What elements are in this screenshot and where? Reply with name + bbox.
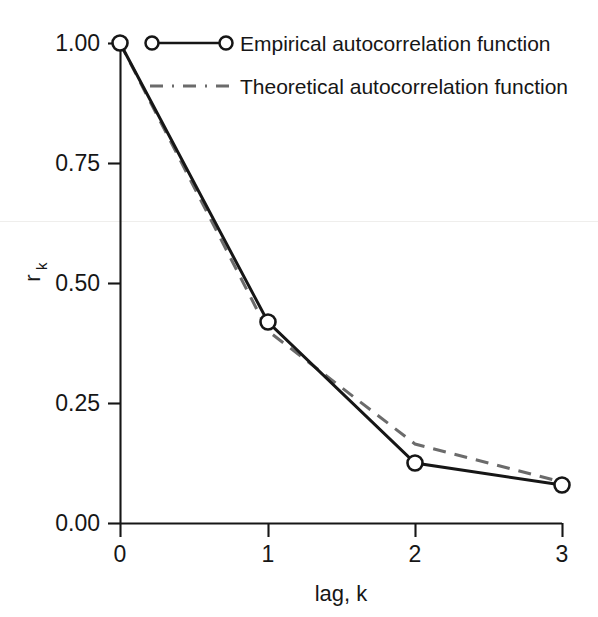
x-tick-label-0: 0 — [114, 541, 127, 567]
y-tick-label-0.75: 0.75 — [55, 150, 100, 176]
y-tick-label-0.00: 0.00 — [55, 510, 100, 536]
data-point-lag-2 — [408, 456, 423, 471]
autocorrelation-figure: r e n v c n 1.00 0.75 0.50 0.25 0.00 — [0, 0, 598, 617]
legend-marker-open-circle-left — [146, 37, 159, 50]
x-axis — [120, 523, 563, 537]
x-tick-label-1: 1 — [262, 541, 275, 567]
legend: Empirical autocorrelation function Theor… — [146, 32, 569, 98]
y-axis-title-main: r — [20, 274, 45, 281]
x-tick-label-2: 2 — [409, 541, 422, 567]
data-point-lag-1 — [261, 315, 276, 330]
data-point-lag-3 — [555, 478, 570, 493]
series-theoretical-line — [120, 43, 562, 482]
series-empirical-line — [120, 43, 562, 485]
series-empirical-markers — [113, 36, 570, 493]
chart-canvas: 1.00 0.75 0.50 0.25 0.00 0 1 2 3 r k lag… — [0, 0, 598, 617]
legend-entry-theoretical[interactable]: Theoretical autocorrelation function — [150, 75, 568, 98]
y-axis-title: r k — [20, 262, 50, 282]
x-axis-title: lag, k — [315, 581, 369, 606]
legend-label-theoretical: Theoretical autocorrelation function — [240, 75, 568, 98]
y-axis-title-sub: k — [33, 262, 50, 270]
y-tick-label-0.50: 0.50 — [55, 270, 100, 296]
y-tick-label-0.25: 0.25 — [55, 390, 100, 416]
legend-marker-open-circle-right — [220, 37, 233, 50]
x-tick-label-3: 3 — [556, 541, 569, 567]
data-point-lag-0 — [113, 36, 128, 51]
y-axis — [108, 43, 121, 524]
legend-entry-empirical[interactable]: Empirical autocorrelation function — [146, 32, 551, 55]
legend-label-empirical: Empirical autocorrelation function — [240, 32, 551, 55]
y-tick-label-1.00: 1.00 — [55, 30, 100, 56]
